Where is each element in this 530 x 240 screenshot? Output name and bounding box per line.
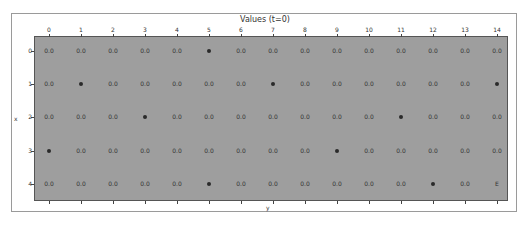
x-tick-mark (273, 34, 274, 37)
x-tick-label: 8 (295, 26, 315, 33)
value-cell: 0.0 (229, 113, 253, 121)
obstacle-dot-icon (431, 182, 435, 186)
value-cell: 0.0 (229, 147, 253, 155)
x-tick-mark (241, 201, 242, 204)
value-cell: 0.0 (165, 47, 189, 55)
value-cell: 0.0 (261, 180, 285, 188)
x-tick-label: 10 (359, 26, 379, 33)
value-cell: 0.0 (325, 80, 349, 88)
value-cell: 0.0 (453, 47, 477, 55)
x-tick-label: 13 (455, 26, 475, 33)
obstacle-dot-icon (335, 149, 339, 153)
goal-cell: E (485, 180, 509, 188)
value-cell: 0.0 (485, 47, 509, 55)
value-cell: 0.0 (293, 180, 317, 188)
y-tick-mark (31, 184, 34, 185)
value-cell: 0.0 (261, 47, 285, 55)
value-cell: 0.0 (37, 80, 61, 88)
value-cell: 0.0 (101, 147, 125, 155)
value-cell: 0.0 (485, 147, 509, 155)
value-cell: 0.0 (165, 113, 189, 121)
value-cell: 0.0 (325, 113, 349, 121)
value-cell: 0.0 (133, 47, 157, 55)
x-axis-label: x (14, 115, 18, 122)
value-cell: 0.0 (261, 147, 285, 155)
x-tick-label: 9 (327, 26, 347, 33)
x-tick-label: 6 (231, 26, 251, 33)
x-tick-mark (465, 201, 466, 204)
y-axis-label: y (266, 204, 270, 211)
x-tick-mark (81, 201, 82, 204)
x-tick-mark (369, 201, 370, 204)
x-tick-mark (401, 34, 402, 37)
value-cell: 0.0 (293, 147, 317, 155)
x-tick-mark (433, 201, 434, 204)
value-cell: 0.0 (165, 147, 189, 155)
x-tick-mark (433, 34, 434, 37)
x-tick-mark (209, 201, 210, 204)
value-cell: 0.0 (37, 180, 61, 188)
x-tick-mark (177, 34, 178, 37)
x-tick-mark (337, 201, 338, 204)
x-tick-mark (49, 34, 50, 37)
x-tick-mark (273, 201, 274, 204)
x-tick-mark (305, 34, 306, 37)
obstacle-dot-icon (207, 49, 211, 53)
value-cell: 0.0 (229, 180, 253, 188)
x-tick-mark (369, 34, 370, 37)
x-tick-mark (337, 34, 338, 37)
x-tick-mark (465, 34, 466, 37)
value-cell: 0.0 (453, 180, 477, 188)
value-cell: 0.0 (325, 47, 349, 55)
value-cell: 0.0 (325, 180, 349, 188)
value-cell: 0.0 (453, 147, 477, 155)
value-cell: 0.0 (101, 80, 125, 88)
y-tick-mark (31, 84, 34, 85)
value-cell: 0.0 (101, 47, 125, 55)
value-cell: 0.0 (133, 80, 157, 88)
value-cell: 0.0 (37, 47, 61, 55)
value-cell: 0.0 (421, 113, 445, 121)
value-cell: 0.0 (389, 80, 413, 88)
value-cell: 0.0 (293, 80, 317, 88)
value-cell: 0.0 (357, 180, 381, 188)
value-cell: 0.0 (197, 147, 221, 155)
value-cell: 0.0 (133, 147, 157, 155)
x-tick-label: 2 (103, 26, 123, 33)
x-tick-mark (145, 34, 146, 37)
value-cell: 0.0 (389, 180, 413, 188)
value-cell: 0.0 (69, 147, 93, 155)
x-tick-mark (401, 201, 402, 204)
x-tick-label: 12 (423, 26, 443, 33)
x-tick-label: 5 (199, 26, 219, 33)
y-tick-mark (31, 117, 34, 118)
x-tick-mark (113, 201, 114, 204)
value-cell: 0.0 (69, 47, 93, 55)
x-tick-mark (209, 34, 210, 37)
value-cell: 0.0 (357, 113, 381, 121)
x-tick-mark (145, 201, 146, 204)
value-cell: 0.0 (357, 47, 381, 55)
value-cell: 0.0 (421, 80, 445, 88)
value-cell: 0.0 (133, 180, 157, 188)
x-tick-mark (113, 34, 114, 37)
obstacle-dot-icon (207, 182, 211, 186)
value-cell: 0.0 (357, 80, 381, 88)
x-tick-label: 3 (135, 26, 155, 33)
x-tick-label: 4 (167, 26, 187, 33)
x-tick-mark (305, 201, 306, 204)
x-tick-mark (241, 34, 242, 37)
x-tick-mark (497, 201, 498, 204)
x-tick-label: 7 (263, 26, 283, 33)
y-tick-mark (31, 51, 34, 52)
obstacle-dot-icon (47, 149, 51, 153)
value-cell: 0.0 (197, 80, 221, 88)
value-cell: 0.0 (453, 113, 477, 121)
value-cell: 0.0 (165, 80, 189, 88)
x-tick-mark (497, 34, 498, 37)
value-cell: 0.0 (261, 113, 285, 121)
x-tick-mark (177, 201, 178, 204)
value-cell: 0.0 (197, 113, 221, 121)
value-cell: 0.0 (485, 113, 509, 121)
value-cell: 0.0 (293, 47, 317, 55)
